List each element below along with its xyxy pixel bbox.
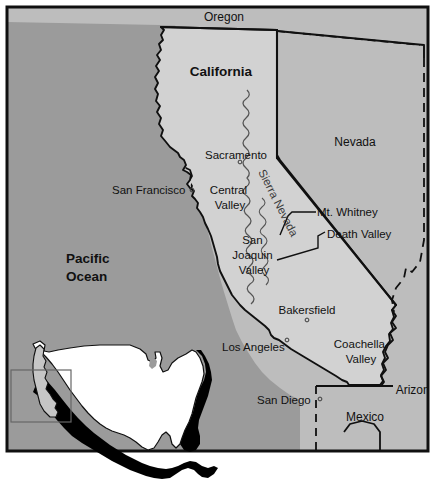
label-nevada: Nevada [334, 135, 376, 149]
label-california: California [190, 64, 253, 79]
label-san-diego: San Diego [257, 394, 311, 406]
label-central-valley-line2: Valley [215, 199, 246, 211]
california-map: California Nevada Oregon Arizona Mexico … [0, 0, 445, 482]
label-death-valley: Death Valley [327, 228, 392, 240]
label-mexico: Mexico [346, 410, 384, 424]
label-sacramento: Sacramento [205, 149, 267, 161]
label-coachella-line2: Valley [346, 353, 377, 365]
label-oregon: Oregon [204, 10, 244, 24]
label-pacific-line1: Pacific [66, 251, 110, 266]
label-coachella-line1: Coachella [334, 338, 386, 350]
label-central-valley-line1: Central [210, 184, 247, 196]
label-san-francisco: San Francisco [112, 184, 186, 196]
label-san-joaquin-line2: Joaquin [232, 249, 272, 261]
label-san-joaquin-line1: San [242, 234, 262, 246]
map-figure: California Nevada Oregon Arizona Mexico … [0, 0, 445, 482]
label-san-joaquin-line3: Valley [239, 264, 270, 276]
label-los-angeles: Los Angeles [222, 341, 285, 353]
label-bakersfield: Bakersfield [279, 304, 336, 316]
label-mt-whitney: Mt. Whitney [317, 206, 378, 218]
label-pacific-line2: Ocean [66, 269, 107, 284]
